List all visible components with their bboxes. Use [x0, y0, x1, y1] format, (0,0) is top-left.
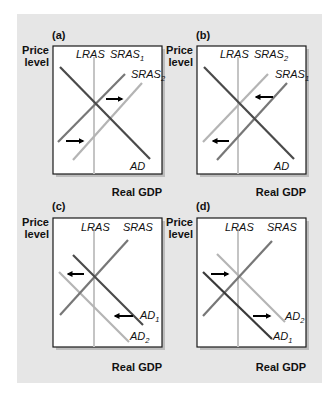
x-axis-label: Real GDP: [256, 186, 306, 198]
sras-label: SRAS: [123, 221, 154, 233]
panel-a: (a) Price level LRAS SRAS1 SRAS2 AD Real…: [22, 29, 166, 198]
lras-label: LRAS: [220, 48, 249, 60]
y-axis-label-line1: Price: [22, 44, 49, 56]
x-axis-label: Real GDP: [112, 186, 162, 198]
panel-d: (d) Price level LRAS SRAS AD2 AD1 Real G…: [166, 200, 309, 373]
x-axis-label: Real GDP: [112, 361, 162, 373]
y-axis-label-line2: level: [25, 228, 49, 240]
y-axis-label-line2: level: [169, 56, 193, 68]
panel-label: (d): [196, 200, 210, 212]
y-axis-label-line1: Price: [166, 44, 193, 56]
panel-b: (b) Price level LRAS SRAS2 SRAS1 AD Real…: [166, 29, 309, 198]
ad-as-figure: (a) Price level LRAS SRAS1 SRAS2 AD Real…: [0, 0, 333, 401]
panel-c: (c) Price level LRAS SRAS AD1 AD2 Real G…: [22, 200, 165, 373]
y-axis-label-line1: Price: [166, 216, 193, 228]
panel-label: (a): [52, 29, 66, 41]
panel-label: (b): [196, 29, 210, 41]
y-axis-label-line2: level: [25, 56, 49, 68]
panel-label: (c): [52, 200, 66, 212]
lras-label: LRAS: [81, 221, 110, 233]
sras-label: SRAS: [267, 221, 298, 233]
x-axis-label: Real GDP: [256, 361, 306, 373]
ad-label: AD: [273, 160, 289, 172]
y-axis-label-line1: Price: [22, 216, 49, 228]
y-axis-label-line2: level: [169, 228, 193, 240]
lras-label: LRAS: [76, 48, 105, 60]
lras-label: LRAS: [225, 221, 254, 233]
ad-label: AD: [129, 160, 145, 172]
